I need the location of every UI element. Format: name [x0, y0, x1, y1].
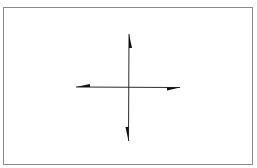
arrow-down-icon [126, 127, 129, 141]
axes-diagram [0, 0, 257, 168]
arrow-right-icon [167, 88, 180, 91]
arrow-up-icon [129, 34, 132, 48]
arrow-left-icon [76, 84, 90, 87]
horizontal-axis [76, 87, 180, 88]
